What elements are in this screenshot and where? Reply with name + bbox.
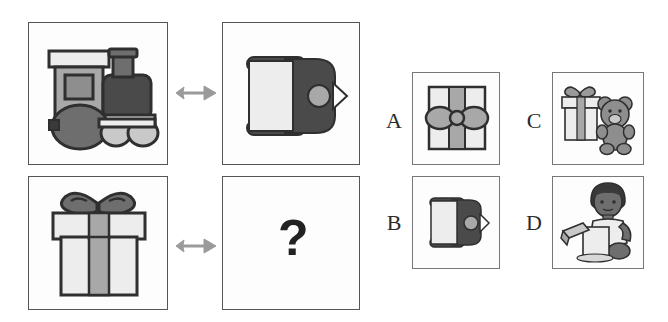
toy-train-top-view-small-art bbox=[413, 177, 501, 270]
gift-box-side-view-art bbox=[29, 177, 169, 311]
option-panel-d[interactable] bbox=[552, 176, 644, 269]
option-letter-c: C bbox=[522, 110, 546, 132]
gift-box-top-view-art bbox=[413, 73, 501, 166]
child-opening-gift-art bbox=[553, 177, 645, 270]
option-panel-c[interactable] bbox=[552, 72, 644, 165]
arrow-right-icon bbox=[174, 236, 218, 256]
option-letter-b: B bbox=[382, 212, 406, 234]
prompt-panel-train-side bbox=[28, 22, 168, 165]
option-letter-a: A bbox=[382, 110, 406, 132]
option-panel-b[interactable] bbox=[412, 176, 500, 269]
arrow-right-icon bbox=[174, 83, 218, 103]
option-letter-d: D bbox=[522, 212, 546, 234]
gift-box-with-teddy-bear-art bbox=[553, 73, 645, 166]
prompt-panel-train-top bbox=[222, 22, 360, 165]
prompt-panel-gift-side bbox=[28, 176, 168, 310]
puzzle-canvas: ? A B C bbox=[0, 0, 668, 322]
relation-arrow-row-2 bbox=[174, 236, 218, 256]
question-mark: ? bbox=[278, 213, 309, 263]
option-panel-a[interactable] bbox=[412, 72, 500, 165]
toy-train-side-view-art bbox=[29, 23, 169, 166]
toy-train-top-view-art bbox=[223, 23, 361, 166]
relation-arrow-row-1 bbox=[174, 83, 218, 103]
